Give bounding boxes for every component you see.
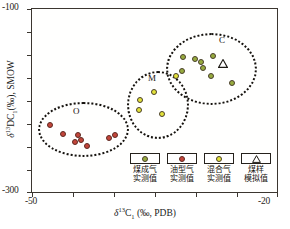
data-point-coal	[208, 73, 214, 79]
data-point-mixed	[151, 89, 157, 95]
data-point-coal	[200, 65, 206, 71]
x-axis-tick	[114, 192, 115, 197]
triangle-open-icon	[252, 155, 261, 163]
legend-label-line1: 煤样	[244, 165, 268, 174]
legend-item-oil-gas: 油型气 实测值	[166, 153, 198, 184]
x-axis-tick	[155, 192, 156, 197]
legend-swatch-box	[130, 153, 160, 164]
y-axis-tick	[27, 101, 32, 102]
y-axis-tick	[27, 78, 32, 79]
x-axis-tick	[237, 192, 238, 197]
circle-olive-icon	[142, 156, 148, 162]
circle-red-icon	[179, 156, 185, 162]
legend-swatch-box	[241, 153, 271, 164]
legend-label-line2: 实测值	[207, 174, 231, 183]
legend-label-line1: 混合气	[207, 165, 231, 174]
circle-yellow-icon	[216, 156, 222, 162]
legend-item-coal-sample: 煤样 模拟值	[240, 153, 272, 184]
y-axis-title-units: (‰), SMOW	[6, 60, 16, 110]
legend-label-line2: 模拟值	[244, 174, 268, 183]
legend-label-oil-gas: 油型气 实测值	[170, 165, 194, 184]
x-axis-tick	[196, 192, 197, 197]
data-point-coal	[179, 68, 185, 74]
legend-label-line2: 实测值	[170, 174, 194, 183]
legend-label-coal-sample: 煤样 模拟值	[244, 165, 268, 184]
data-point-mixed	[136, 107, 142, 113]
data-point-oil	[106, 135, 112, 141]
x-axis-title: δ13C1 (‰, PDB)	[0, 206, 290, 220]
data-point-oil	[112, 132, 118, 138]
y-axis-tick	[27, 32, 32, 33]
data-point-mixed	[159, 111, 165, 117]
x-axis-tick-label-right: -20	[258, 196, 270, 206]
x-axis-tick	[277, 192, 278, 197]
data-point-coal-sample-simulated	[218, 59, 228, 68]
x-axis-tick	[32, 192, 33, 197]
legend-item-mixed-gas: 混合气 实测值	[203, 153, 235, 184]
y-axis-tick	[27, 9, 32, 10]
x-axis-tick	[73, 192, 74, 197]
data-point-coal	[180, 54, 186, 60]
figure-scatter-isotope: -100 -300 -50 -20 δ13C1 (‰, PDB) δ13DC1(…	[0, 0, 290, 229]
legend-swatch-box	[204, 153, 234, 164]
y-axis-tick	[27, 124, 32, 125]
y-axis-tick	[27, 55, 32, 56]
legend-label-mixed-gas: 混合气 实测值	[207, 165, 231, 184]
y-axis-title-superscript: 13	[4, 127, 11, 134]
data-point-oil	[78, 137, 84, 143]
cluster-label-mixed: M	[148, 73, 156, 83]
y-axis-tick-label-top: -100	[2, 2, 19, 12]
cluster-label-coal: C	[219, 35, 225, 45]
data-point-oil	[60, 131, 66, 137]
plot-area: O M C	[31, 8, 278, 193]
legend-label-line1: 煤成气	[133, 165, 157, 174]
y-axis-title-element: DC	[6, 114, 16, 127]
y-axis-tick	[27, 147, 32, 148]
y-axis-title-subscript: 1	[11, 110, 18, 113]
y-axis-tick	[27, 170, 32, 171]
data-point-oil	[84, 143, 90, 149]
y-axis-title: δ13DC1(‰), SMOW	[4, 24, 18, 174]
cluster-ellipse-oil	[38, 102, 129, 157]
data-point-mixed	[137, 97, 143, 103]
cluster-label-oil: O	[73, 106, 80, 116]
legend-swatch-box	[167, 153, 197, 164]
legend-item-coal-gas: 煤成气 实测值	[129, 153, 161, 184]
legend-label-line1: 油型气	[170, 165, 194, 174]
data-point-oil	[47, 122, 53, 128]
y-axis-tick-label-bottom: -300	[2, 185, 19, 195]
data-point-coal	[229, 80, 235, 86]
x-axis-title-units: (‰, PDB)	[135, 208, 176, 218]
legend-label-line2: 实测值	[133, 174, 157, 183]
legend: 煤成气 实测值 油型气 实测值 混合气 实测值	[129, 153, 272, 184]
x-axis-tick-label-left: -50	[25, 196, 37, 206]
data-point-coal	[192, 56, 198, 62]
y-axis-title-delta: δ	[6, 133, 16, 137]
data-point-coal	[210, 53, 216, 59]
legend-label-coal-gas: 煤成气 实测值	[133, 165, 157, 184]
